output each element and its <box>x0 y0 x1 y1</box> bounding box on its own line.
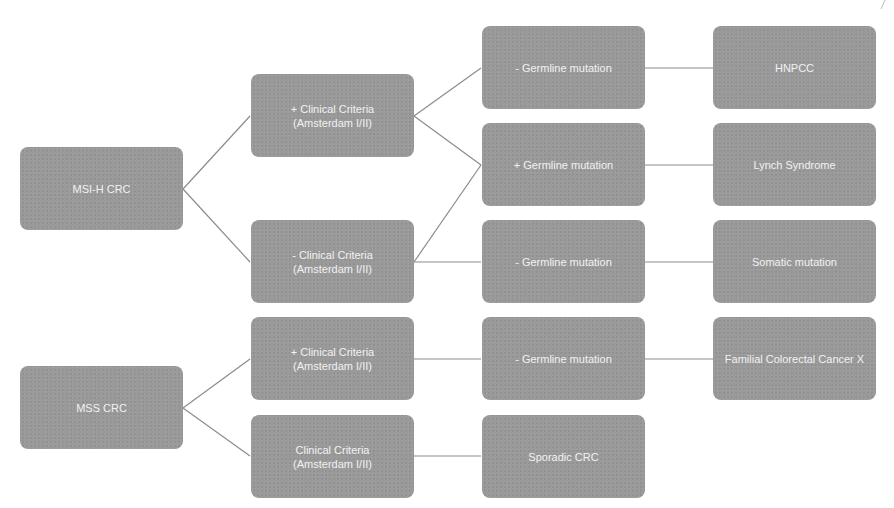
node-hnpcc: HNPCC <box>713 26 876 109</box>
node-mss-pos-clinical-criteria: + Clinical Criteria (Amsterdam I/II) <box>251 317 414 400</box>
node-mss-clinical-criteria: Clinical Criteria (Amsterdam I/II) <box>251 415 414 498</box>
edge-msi-to-neg-clinical <box>183 189 250 262</box>
node-familial-colorectal-cancer-x: Familial Colorectal Cancer X <box>713 317 876 400</box>
node-pos-germline-mutation: + Germline mutation <box>482 123 645 206</box>
node-lynch-syndrome: Lynch Syndrome <box>713 123 876 206</box>
node-sporadic-crc: Sporadic CRC <box>482 415 645 498</box>
edge-pos-clinical-to-neg-germline <box>414 68 481 116</box>
edge-mss-to-clinical <box>183 408 250 456</box>
edge-neg-clinical-to-pos-germline <box>414 165 481 262</box>
node-neg-germline-mutation-3: - Germline mutation <box>482 317 645 400</box>
node-neg-germline-mutation-1: - Germline mutation <box>482 26 645 109</box>
node-mss-crc: MSS CRC <box>20 366 183 449</box>
node-msi-pos-clinical-criteria: + Clinical Criteria (Amsterdam I/II) <box>251 74 414 157</box>
node-msi-h-crc: MSI-H CRC <box>20 147 183 230</box>
node-msi-neg-clinical-criteria: - Clinical Criteria (Amsterdam I/II) <box>251 220 414 303</box>
node-neg-germline-mutation-2: - Germline mutation <box>482 220 645 303</box>
node-somatic-mutation: Somatic mutation <box>713 220 876 303</box>
corner-mark-icon <box>876 0 886 10</box>
edge-msi-to-pos-clinical <box>183 116 250 189</box>
crc-classification-diagram: MSI-H CRC MSS CRC + Clinical Criteria (A… <box>0 0 894 508</box>
edge-pos-clinical-to-pos-germline <box>414 116 481 165</box>
edge-mss-to-pos-clinical <box>183 359 250 408</box>
